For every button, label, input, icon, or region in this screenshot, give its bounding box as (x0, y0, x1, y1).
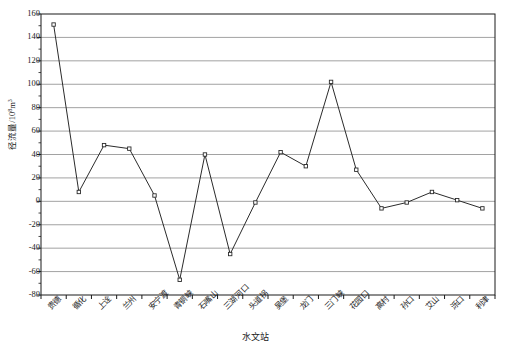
data-point-marker (153, 194, 156, 197)
data-point-marker (77, 190, 80, 193)
y-axis-tick-label: 160 (14, 9, 40, 18)
data-point-marker (329, 80, 332, 83)
y-axis-tick-label: 60 (14, 126, 40, 135)
data-point-marker (279, 150, 282, 153)
data-point-marker (254, 201, 257, 204)
data-point-marker (178, 278, 181, 281)
y-axis-tick-label: -20 (14, 220, 40, 229)
y-axis-tick-labels: 160140120100806040200-20-40-60-80 (12, 0, 40, 355)
x-axis-title: 水文站 (0, 330, 511, 343)
data-point-marker (304, 165, 307, 168)
data-point-marker (455, 198, 458, 201)
data-point-marker (128, 147, 131, 150)
data-point-marker (405, 201, 408, 204)
y-axis-tick-label: 120 (14, 56, 40, 65)
data-point-marker (355, 168, 358, 171)
y-axis-tick-label: -40 (14, 243, 40, 252)
y-axis-tick-label: 40 (14, 150, 40, 159)
y-axis-tick-label: 0 (14, 196, 40, 205)
y-axis-tick-label: 140 (14, 32, 40, 41)
data-point-marker (52, 23, 55, 26)
data-point-marker (481, 207, 484, 210)
y-axis-tick-label: 100 (14, 79, 40, 88)
data-line (54, 25, 483, 280)
data-point-marker (430, 190, 433, 193)
data-point-marker (102, 143, 105, 146)
data-point-marker (228, 252, 231, 255)
y-axis-tick-label: -80 (14, 290, 40, 299)
data-point-marker (203, 153, 206, 156)
y-axis-tick-label: 80 (14, 103, 40, 112)
data-point-marker (380, 207, 383, 210)
runoff-line-chart: 径流量/108m3 160140120100806040200-20-40-60… (0, 0, 511, 355)
y-axis-tick-label: -60 (14, 267, 40, 276)
y-axis-tick-label: 20 (14, 173, 40, 182)
